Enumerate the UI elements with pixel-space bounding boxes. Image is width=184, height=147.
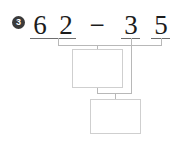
minus-operator: − [88,12,106,39]
subtrahend-ones-digit: 5 [152,12,170,39]
minuend-underline [30,38,76,39]
minuend-tens-digit: 6 [31,12,49,39]
minuend-ones-digit: 2 [57,12,75,39]
connector-minuend-drop [58,38,59,45]
problem-number-badge: 3 [12,16,25,29]
subtrahend-tens-digit: 3 [122,12,140,39]
worksheet-problem: 3 6 2 − 3 5 [0,0,184,147]
final-answer-box[interactable] [90,99,141,134]
connector-bar-step1 [58,45,162,46]
intermediate-answer-box[interactable] [72,49,123,88]
connector-ones-drop [161,38,162,45]
connector-tens-long-drop [131,38,132,93]
